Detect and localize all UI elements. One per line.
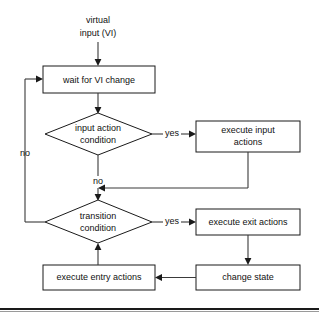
node-wait-for-vi-change-label: wait for VI change xyxy=(62,75,135,85)
edge-label-yes-input: yes xyxy=(165,128,180,138)
flowchart-svg: virtual input (VI) wait for VI change in… xyxy=(0,0,319,316)
node-input-action-condition-label-line1: input action xyxy=(75,123,121,133)
arrowhead-transition-yes xyxy=(189,219,196,226)
node-execute-input-actions-label-line1: execute input xyxy=(221,125,275,135)
flowchart-canvas: virtual input (VI) wait for VI change in… xyxy=(0,0,319,316)
node-transition-condition-label-line2: condition xyxy=(80,223,116,233)
arrowhead-exit-actions-to-change-state xyxy=(245,258,252,265)
node-change-state-label: change state xyxy=(222,272,274,282)
page-bottom-rule-shadow xyxy=(0,311,319,312)
node-input-action-condition-label-line2: condition xyxy=(80,135,116,145)
source-label-line2: input (VI) xyxy=(80,28,117,38)
node-execute-entry-actions-label: execute entry actions xyxy=(56,272,142,282)
arrowhead-entry-actions-to-transition xyxy=(95,243,102,250)
arrowhead-source-to-wait xyxy=(95,59,102,66)
arrowhead-input-condition-yes xyxy=(189,131,196,138)
node-input-action-condition[interactable] xyxy=(45,113,152,155)
arrowhead-transition-no xyxy=(36,76,43,83)
node-execute-input-actions-label-line2: actions xyxy=(234,137,263,147)
arrowhead-change-state-to-entry-actions xyxy=(155,274,162,281)
page-bottom-rule xyxy=(0,308,319,310)
node-transition-condition[interactable] xyxy=(45,200,152,243)
node-execute-exit-actions-label: execute exit actions xyxy=(208,217,288,227)
edge-label-yes-transition: yes xyxy=(165,216,180,226)
edge-label-no-transition: no xyxy=(20,148,30,158)
node-transition-condition-label-line1: transition xyxy=(80,211,117,221)
source-label-line1: virtual xyxy=(86,15,110,25)
edge-label-no-input: no xyxy=(93,176,103,186)
